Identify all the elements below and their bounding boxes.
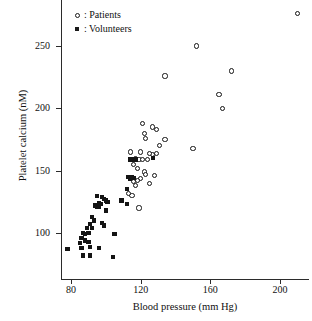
data-point-patients bbox=[136, 205, 141, 210]
data-point-patients bbox=[162, 73, 167, 78]
data-point-volunteers bbox=[85, 226, 89, 230]
x-tick-label: 80 bbox=[56, 285, 86, 295]
data-point-patients bbox=[147, 151, 152, 156]
x-axis-label: Blood pressure (mm Hg) bbox=[61, 301, 309, 312]
data-point-patients bbox=[157, 143, 162, 148]
legend: : Patients : Volunteers bbox=[70, 8, 132, 36]
x-tick-label: 200 bbox=[265, 285, 295, 295]
data-point-patients bbox=[135, 166, 140, 171]
data-point-volunteers bbox=[102, 223, 106, 227]
data-point-volunteers bbox=[125, 187, 129, 191]
data-point-patients bbox=[152, 173, 157, 178]
data-point-volunteers bbox=[151, 156, 155, 160]
data-point-volunteers bbox=[88, 245, 92, 249]
y-tick-label: 200 bbox=[24, 103, 50, 113]
filled-square-icon bbox=[70, 27, 84, 31]
data-point-patients bbox=[229, 68, 234, 73]
y-tick-label: 100 bbox=[24, 228, 50, 238]
y-tick bbox=[56, 171, 61, 172]
legend-label-volunteers: : Volunteers bbox=[84, 22, 132, 36]
data-point-volunteers bbox=[133, 157, 137, 161]
y-tick bbox=[56, 108, 61, 109]
data-point-volunteers bbox=[119, 198, 123, 202]
x-axis-line bbox=[61, 279, 309, 280]
y-tick bbox=[56, 46, 61, 47]
data-point-volunteers bbox=[125, 202, 129, 206]
y-tick-label: 250 bbox=[24, 41, 50, 51]
data-point-volunteers bbox=[78, 241, 82, 245]
data-point-patients bbox=[295, 11, 300, 16]
data-point-volunteers bbox=[81, 253, 85, 257]
data-point-patients bbox=[145, 157, 150, 162]
data-point-patients bbox=[128, 149, 133, 154]
y-axis-label: Platelet calcium (nM) bbox=[17, 56, 28, 216]
data-point-patients bbox=[147, 181, 152, 186]
data-point-patients bbox=[138, 149, 143, 154]
data-point-volunteers bbox=[79, 246, 83, 250]
x-tick-label: 120 bbox=[126, 285, 156, 295]
data-point-volunteers bbox=[128, 177, 132, 181]
data-point-patients bbox=[140, 121, 145, 126]
data-point-volunteers bbox=[112, 232, 116, 236]
open-circle-icon bbox=[70, 13, 84, 18]
scatter-plot: 100150200250 80120160200 Platelet calciu… bbox=[0, 0, 312, 321]
data-point-volunteers bbox=[105, 200, 109, 204]
x-tick-label: 160 bbox=[195, 285, 225, 295]
data-point-volunteers bbox=[95, 194, 99, 198]
y-tick bbox=[56, 233, 61, 234]
data-point-volunteers bbox=[65, 247, 69, 251]
data-point-volunteers bbox=[111, 255, 115, 259]
data-point-volunteers bbox=[90, 226, 94, 230]
data-point-patients bbox=[162, 137, 167, 142]
data-point-volunteers bbox=[88, 253, 92, 257]
data-point-patients bbox=[220, 106, 225, 111]
data-point-volunteers bbox=[97, 205, 101, 209]
data-point-patients bbox=[216, 92, 221, 97]
data-point-patients bbox=[143, 172, 148, 177]
legend-item-patients: : Patients bbox=[70, 8, 132, 22]
y-tick-label: 150 bbox=[24, 166, 50, 176]
legend-item-volunteers: : Volunteers bbox=[70, 22, 132, 36]
data-point-volunteers bbox=[97, 246, 101, 250]
y-axis-line bbox=[61, 0, 62, 280]
data-point-patients bbox=[194, 43, 199, 48]
legend-label-patients: : Patients bbox=[84, 8, 121, 22]
data-point-volunteers bbox=[104, 208, 108, 212]
data-point-patients bbox=[143, 136, 148, 141]
data-point-volunteers bbox=[86, 240, 90, 244]
data-point-patients bbox=[133, 183, 138, 188]
data-point-patients bbox=[190, 146, 195, 151]
